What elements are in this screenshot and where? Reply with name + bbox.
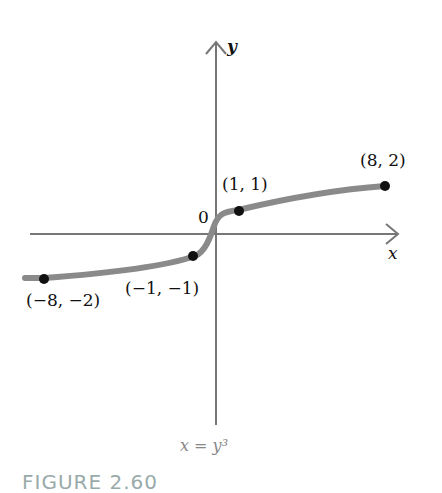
equation-label: x = y³	[180, 436, 228, 455]
point-label-1-1: (1, 1)	[222, 174, 268, 194]
y-axis-label: y	[227, 36, 237, 56]
x-axis-label: x	[388, 243, 398, 263]
point-8-2	[380, 181, 390, 191]
point-label-neg8-neg2: (−8, −2)	[26, 290, 100, 310]
point-label-8-2: (8, 2)	[360, 150, 406, 170]
point-1-1	[234, 206, 244, 216]
point-label-neg1-neg1: (−1, −1)	[125, 278, 199, 298]
origin-label: 0	[198, 207, 209, 227]
point-neg1-neg1	[188, 251, 198, 261]
curve-x-equals-y-cubed	[25, 186, 385, 278]
point-neg8-neg2	[39, 274, 49, 284]
figure-caption: FIGURE 2.60	[22, 470, 158, 493]
